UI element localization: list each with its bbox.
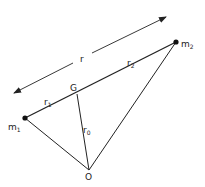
label-r0: r0	[83, 125, 91, 136]
mass-m2-dot	[173, 39, 178, 44]
label-r1: r1	[44, 97, 52, 108]
label-O: O	[85, 172, 92, 182]
two-body-diagram: r m1 m2 G O r1 r2 r0	[0, 0, 205, 187]
label-G: G	[70, 83, 77, 93]
label-r: r	[80, 54, 84, 64]
line-m1-O	[25, 118, 89, 170]
diagram-svg: r m1 m2 G O r1 r2 r0	[0, 0, 205, 187]
distance-arrow-right	[92, 17, 166, 53]
label-m2: m2	[181, 39, 194, 50]
label-m1: m1	[8, 122, 21, 133]
label-r2: r2	[127, 58, 135, 69]
distance-arrow-left	[14, 63, 73, 93]
mass-m1-dot	[22, 115, 27, 120]
